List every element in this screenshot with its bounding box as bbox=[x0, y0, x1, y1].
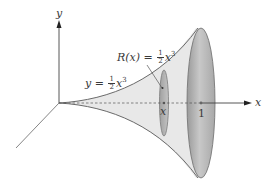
x-axis-arrow-icon bbox=[244, 101, 252, 106]
radius-pointer-dot bbox=[162, 87, 164, 89]
y-axis-arrow-icon bbox=[57, 20, 62, 28]
radius-fraction: 12 bbox=[157, 50, 163, 65]
endpoint-label: 1 bbox=[198, 108, 205, 119]
radius-function-label: R(x) = 12x3 bbox=[117, 50, 175, 65]
disk-center-1 bbox=[200, 102, 203, 105]
solid-of-revolution-diagram: y x R(x) = 12x3 y = 12x3 x 1 bbox=[0, 0, 268, 194]
curve-equation-label: y = 12x3 bbox=[85, 76, 127, 91]
radius-lhs: R(x) = bbox=[117, 51, 153, 64]
y-axis-label: y bbox=[56, 8, 62, 19]
z-axis bbox=[16, 103, 59, 148]
curve-fraction: 12 bbox=[108, 76, 114, 91]
x-axis-label: x bbox=[255, 97, 261, 108]
curve-lhs: y = bbox=[85, 77, 104, 90]
disk-position-label: x bbox=[160, 106, 166, 117]
disk-center-x bbox=[163, 102, 165, 104]
diagram-svg bbox=[0, 0, 268, 194]
